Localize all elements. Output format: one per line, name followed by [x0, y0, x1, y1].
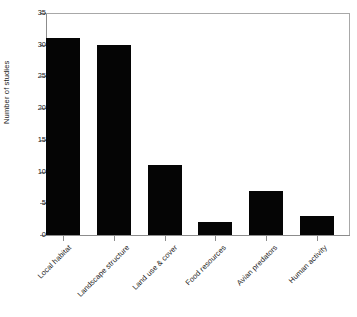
y-tick-label: 20 [22, 104, 46, 112]
x-tick-label: Local habitat [36, 243, 73, 280]
bar [97, 45, 131, 235]
bars-layer [46, 13, 350, 235]
x-tick-mark [63, 236, 64, 241]
y-tick-label: 0 [22, 231, 46, 239]
x-tick-label: Land use & cover [130, 243, 179, 292]
bar-chart-figure: Number of studies 05101520253035 Local h… [0, 0, 357, 317]
y-tick-label-wrap: 30 [0, 41, 46, 49]
y-tick-label-wrap: 0 [0, 231, 46, 239]
bar-column [300, 13, 334, 235]
bar-column [97, 13, 131, 235]
bar-column [198, 13, 232, 235]
y-tick-label: 10 [22, 168, 46, 176]
bar [300, 216, 334, 235]
bar-column [46, 13, 80, 235]
bar-column [249, 13, 283, 235]
bar [249, 191, 283, 235]
x-tick-mark [165, 236, 166, 241]
y-tick-label-wrap: 25 [0, 72, 46, 80]
y-tick-label-wrap: 5 [0, 199, 46, 207]
bar [46, 38, 80, 235]
x-tick-mark [266, 236, 267, 241]
y-tick-label: 35 [22, 9, 46, 17]
bar [198, 222, 232, 235]
bar [148, 165, 182, 235]
x-tick-label: Landscape structure [76, 243, 132, 299]
y-tick-label-wrap: 15 [0, 136, 46, 144]
y-tick-label: 25 [22, 72, 46, 80]
x-tick-label: Avian predators [234, 243, 278, 287]
bar-column [148, 13, 182, 235]
y-tick-label: 5 [22, 199, 46, 207]
x-tick-mark [114, 236, 115, 241]
x-axis-line [46, 235, 350, 236]
y-tick-label: 30 [22, 41, 46, 49]
y-tick-label-wrap: 35 [0, 9, 46, 17]
x-tick-mark [215, 236, 216, 241]
y-tick-label-wrap: 10 [0, 168, 46, 176]
x-tick-mark [317, 236, 318, 241]
x-tick-label: Food resources [184, 243, 228, 287]
y-tick-label-wrap: 20 [0, 104, 46, 112]
x-tick-label: Human activity [286, 243, 328, 285]
y-tick-label: 15 [22, 136, 46, 144]
